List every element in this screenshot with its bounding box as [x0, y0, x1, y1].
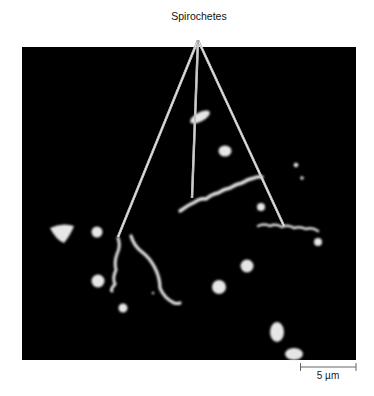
micrograph-figure [0, 0, 374, 396]
scale-bar-label: 5 µm [300, 370, 356, 381]
